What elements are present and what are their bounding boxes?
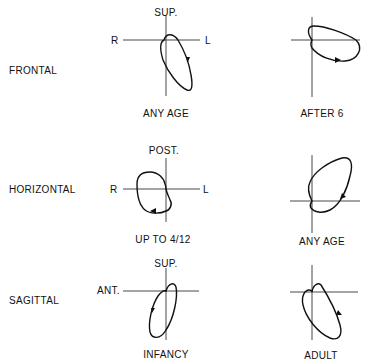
panel-sagittal-adult: ADULT <box>290 265 358 361</box>
panel-caption: INFANCY <box>143 349 188 360</box>
panel-caption: ANY AGE <box>143 108 189 119</box>
axis-label-l: L <box>203 184 209 195</box>
qrs-loop <box>161 35 192 91</box>
panel-caption: ANY AGE <box>299 236 345 247</box>
qrs-loop <box>308 26 359 61</box>
panel-horizontal-any-age: ANY AGE <box>290 155 360 247</box>
panel-sagittal-infancy: SUP. ANT. INFANCY <box>97 258 199 360</box>
panel-caption: ADULT <box>304 350 338 361</box>
panel-caption: UP TO 4/12 <box>135 234 190 245</box>
arrow-head-icon <box>336 310 342 315</box>
row-label-sagittal: SAGITTAL <box>9 295 59 306</box>
axis-label-r: R <box>111 35 119 46</box>
axis-label-ant: ANT. <box>97 285 120 296</box>
panel-frontal-any-age: SUP. R L ANY AGE <box>111 7 211 119</box>
vectorcardiogram-diagram: FRONTAL HORIZONTAL SAGITTAL SUP. R L ANY… <box>0 0 368 364</box>
panel-horizontal-up-to-4-12: POST. R L UP TO 4/12 <box>110 145 209 245</box>
panel-frontal-after-6: AFTER 6 <box>291 17 360 119</box>
axis-label-sup: SUP. <box>154 258 177 269</box>
axis-label-sup: SUP. <box>154 7 177 18</box>
qrs-loop <box>309 158 352 212</box>
row-label-horizontal: HORIZONTAL <box>9 184 76 195</box>
axis-label-l: L <box>205 35 211 46</box>
panel-caption: AFTER 6 <box>300 108 343 119</box>
axis-label-r: R <box>110 184 118 195</box>
qrs-loop <box>149 284 176 338</box>
axis-label-post: POST. <box>149 145 179 156</box>
arrow-head-icon <box>335 57 341 63</box>
row-label-frontal: FRONTAL <box>9 65 57 76</box>
arrow-head-icon <box>340 193 346 199</box>
